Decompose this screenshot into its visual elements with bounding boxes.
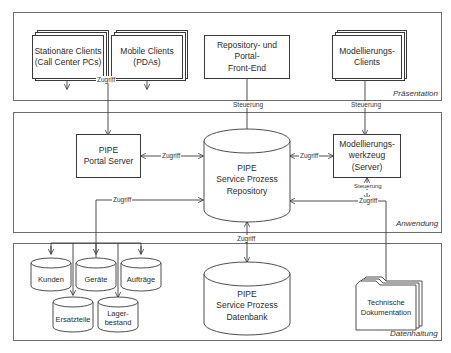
label-steuerung-werkzeug: Steuerung: [353, 183, 383, 189]
portal-server-box: PIPE Portal Server: [76, 134, 141, 178]
layer-label-anwendung: Anwendung: [396, 219, 438, 228]
frontend-box: Repository- und Portal- Front-End: [204, 35, 290, 79]
kunden-cylinder: Kunden: [31, 272, 71, 288]
mobile-clients-box: Mobile Clients (PDAs): [111, 35, 183, 79]
layer-label-praesentation: Präsentation: [393, 89, 438, 98]
lagerbestand-cylinder: Lager- bestand: [98, 306, 138, 330]
layer-label-datenhaltung: Datenhaltung: [390, 329, 438, 338]
label-zugriff-datenbank: Zugriff: [236, 235, 256, 242]
label-zugriff-clients: Zugriff: [96, 76, 116, 83]
label-steuerung-modellierung: Steuerung: [350, 101, 382, 108]
label-zugriff-portal-repo: Zugriff: [161, 152, 181, 159]
datenbank-cylinder: PIPE Service Prozess Datenbank: [204, 286, 290, 326]
label-zugriff-repo-werkzeug: Zugriff: [299, 152, 319, 159]
label-zugriff-daten: Zugriff: [112, 196, 132, 203]
label-zugriff-doku: Zugriff: [358, 197, 378, 204]
label-steuerung-frontend: Steuerung: [232, 101, 264, 108]
auftraege-cylinder: Aufträge: [121, 272, 161, 288]
ersatzteile-cylinder: Ersatzteile: [53, 312, 93, 328]
stationaere-clients-box: Stationäre Clients (Call Center PCs): [32, 35, 104, 79]
geraete-cylinder: Geräte: [76, 272, 116, 288]
modellierungs-clients-box: Modellierungs- Clients: [332, 35, 402, 79]
modellierungswerkzeug-box: Modellierungs- werkzeug (Server): [333, 134, 401, 178]
technische-dokumentation-folder: Technische Dokumentation: [356, 292, 416, 324]
repository-cylinder: PIPE Service Prozess Repository: [204, 160, 290, 200]
